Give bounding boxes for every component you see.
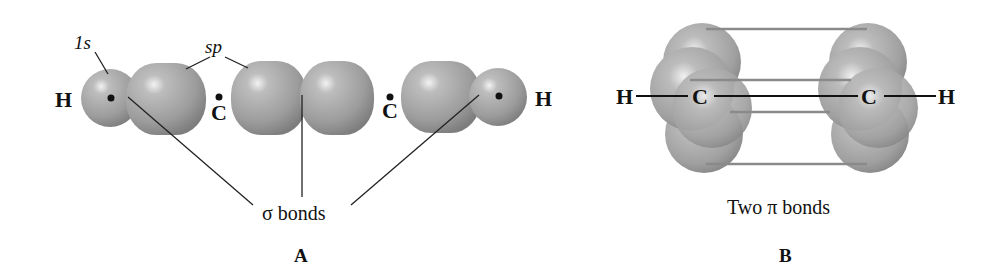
- panel-label-a: A: [294, 246, 308, 265]
- label-sp: sp: [205, 37, 222, 56]
- pi-orbital-diagram: {}: [580, 0, 992, 275]
- caption-two-pi-bonds: Two π bonds: [727, 197, 830, 217]
- panel-label-b: B: [779, 246, 792, 265]
- atom-c-right: C: [382, 100, 398, 122]
- h-nucleus-left: [108, 95, 115, 102]
- label-1s: 1s: [74, 33, 91, 52]
- atom-h-right: H: [535, 88, 552, 110]
- sp-orbital-1: [126, 63, 206, 135]
- leader-sp-right: [225, 57, 248, 68]
- panel-b-pi-bonds: {} H C C H Two π bonds B: [580, 0, 992, 275]
- caption-sigma-bonds: σ bonds: [262, 203, 326, 223]
- atom-c-left: C: [211, 102, 227, 124]
- atom-c-left-b: C: [692, 86, 708, 108]
- leader-sp-left: [186, 57, 210, 69]
- atom-h-left-b: H: [616, 86, 633, 108]
- h-nucleus-right: [496, 93, 503, 100]
- sp-orbital-2: [231, 61, 307, 135]
- atom-h-right-b: H: [938, 86, 955, 108]
- panel-a-sigma-bonds: 1s sp H C C H σ bonds A: [0, 0, 580, 275]
- sp-orbital-3: [300, 61, 374, 135]
- atom-h-left: H: [55, 89, 72, 111]
- atom-c-right-b: C: [861, 86, 877, 108]
